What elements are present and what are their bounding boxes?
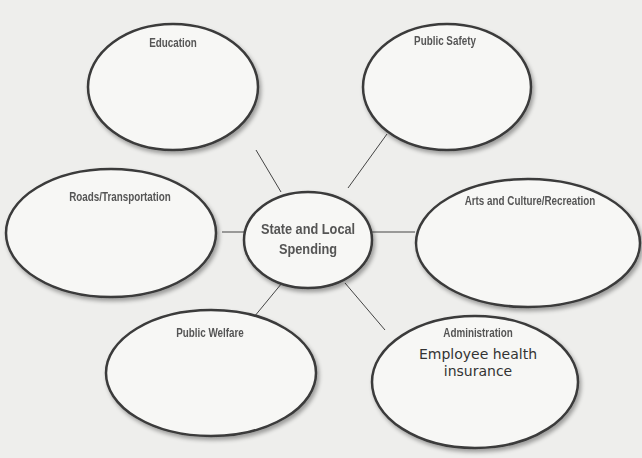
education-label: Education (132, 36, 214, 50)
center-label-line1: State and Local (249, 219, 368, 239)
public-welfare-label: Public Welfare (161, 326, 259, 340)
administration-entry-line1: Employee health (398, 346, 558, 363)
administration-entry-line2: insurance (398, 363, 558, 380)
arts-culture-recreation-label: Arts and Culture/Recreation (448, 194, 612, 208)
center-label-line2: Spending (249, 239, 368, 259)
public-safety-label: Public Safety (396, 34, 494, 48)
center-label: State and Local Spending (249, 219, 368, 259)
roads-transportation-bubble (6, 169, 216, 297)
roads-transportation-label: Roads/Transportation (59, 190, 182, 204)
administration-entry: Employee health insurance (398, 346, 558, 380)
administration-label: Administration (421, 326, 536, 340)
